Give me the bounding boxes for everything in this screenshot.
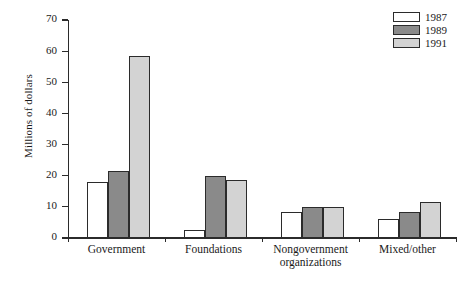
legend-swatch [393,25,420,35]
y-axis-tick-label: 10 [17,200,57,211]
x-axis-tick [456,237,457,242]
y-axis-tick-label: 30 [17,138,57,149]
x-axis-tick [68,237,69,242]
x-axis-tick [262,237,263,242]
x-axis-label: Mixed/other [349,243,466,256]
bar [108,171,129,238]
y-axis-tick-label: 20 [17,169,57,180]
legend-label: 1991 [425,38,447,49]
plot-area [68,20,456,238]
legend-label: 1989 [425,25,447,36]
bar [378,219,399,238]
bar-group [184,20,247,238]
bar [281,212,302,238]
bar-group [378,20,441,238]
bar-group [87,20,150,238]
y-axis-tick-label: 60 [17,45,57,56]
legend-label: 1987 [425,12,447,23]
bar [323,207,344,238]
bar [420,202,441,238]
legend-item: 1987 [393,11,447,23]
bar [302,207,323,238]
y-axis-tick-label: 40 [17,107,57,118]
bar [226,180,247,238]
legend: 198719891991 [393,11,447,50]
bar-group [281,20,344,238]
legend-item: 1991 [393,37,447,49]
y-axis-tick-label: 70 [17,13,57,24]
y-axis-tick-label: 0 [17,231,57,242]
bar-chart: Millions of dollars 010203040506070 Gove… [0,0,471,281]
y-axis-tick-label: 50 [17,76,57,87]
legend-item: 1989 [393,24,447,36]
bar [184,230,205,238]
x-axis-tick [359,237,360,242]
legend-swatch [393,38,420,48]
bar [129,56,150,238]
legend-swatch [393,12,420,22]
bar [399,212,420,238]
bar [87,182,108,238]
bar [205,176,226,238]
x-axis-tick [165,237,166,242]
